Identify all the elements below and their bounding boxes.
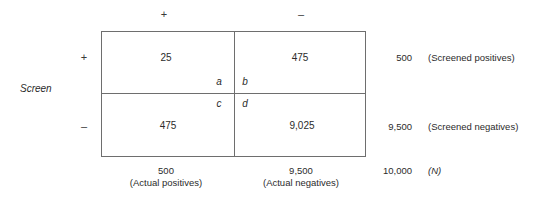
- grand-total-label: (N): [428, 165, 441, 177]
- horizontal-divider: [102, 93, 365, 94]
- column-header-negative: –: [298, 8, 304, 20]
- contingency-table-grid: [101, 31, 366, 157]
- row-total-positives-value: 500: [380, 52, 412, 64]
- column-total-positives-label: (Actual positives): [130, 177, 202, 189]
- column-total-positives: 500 (Actual positives): [130, 165, 202, 189]
- cell-c-key: c: [217, 98, 222, 109]
- row-total-negatives-value: 9,500: [380, 121, 412, 133]
- cell-a-value: 25: [160, 52, 171, 63]
- cell-b-value: 475: [292, 52, 309, 63]
- column-header-positive: +: [161, 8, 167, 20]
- row-axis-label-screen: Screen: [20, 83, 52, 96]
- vertical-divider: [234, 32, 235, 156]
- row-total-positives-label: (Screened positives): [428, 52, 515, 64]
- row-header-negative: –: [81, 120, 87, 132]
- row-header-positive: +: [81, 51, 87, 63]
- two-by-two-table-figure: + – Screen + – 25 475 475 9,025 a b c d …: [0, 0, 542, 207]
- grand-total-value: 10,000: [372, 165, 412, 177]
- cell-c-value: 475: [160, 120, 177, 131]
- column-total-negatives-label: (Actual negatives): [263, 177, 339, 189]
- cell-b-key: b: [242, 76, 248, 87]
- column-total-negatives: 9,500 (Actual negatives): [263, 165, 339, 189]
- column-total-negatives-value: 9,500: [263, 165, 339, 177]
- cell-a-key: a: [216, 76, 222, 87]
- cell-d-key: d: [242, 98, 248, 109]
- row-total-negatives-label: (Screened negatives): [428, 121, 518, 133]
- cell-d-value: 9,025: [289, 120, 314, 131]
- column-total-positives-value: 500: [130, 165, 202, 177]
